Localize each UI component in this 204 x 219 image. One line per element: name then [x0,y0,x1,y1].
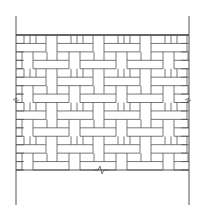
brick-screen-wall-diagram [0,0,204,219]
break-mark-icon [185,98,191,102]
break-mark-icon [13,98,19,102]
break-mark-icon [94,166,108,174]
